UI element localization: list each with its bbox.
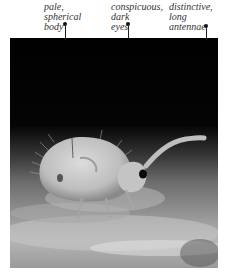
leader-line [206, 26, 207, 38]
leader-line [128, 24, 129, 38]
label-line: eyes [111, 22, 163, 32]
springtail-illustration [10, 38, 218, 268]
leader-line [65, 24, 66, 38]
annotation-eyes-label: conspicuous, dark eyes [111, 2, 163, 32]
annotation-body-label: pale, spherical body [44, 2, 81, 32]
springtail-photo [10, 38, 218, 268]
